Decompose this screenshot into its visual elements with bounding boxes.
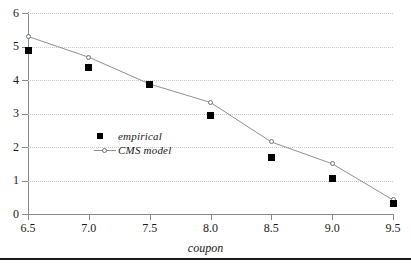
data-point-cms-model — [330, 161, 335, 166]
chart-figure: 6 5 4 3 2 1 0 6.5 7.0 7.5 8.0 8.5 9.0 9.… — [0, 0, 411, 267]
x-axis-title: coupon — [0, 241, 411, 256]
y-tick-label: 0 — [0, 208, 19, 220]
y-tick-label: 1 — [0, 174, 19, 186]
x-tick-label: 8.5 — [251, 222, 291, 235]
data-point-empirical — [390, 200, 397, 207]
plot-area: empirical CMS model — [28, 13, 393, 214]
data-point-empirical — [207, 112, 214, 119]
x-tick-label: 7.0 — [69, 222, 109, 235]
legend-label: CMS model — [118, 144, 171, 156]
x-tick-label: 9.0 — [312, 222, 352, 235]
y-tick-label: 5 — [0, 40, 19, 52]
x-tick-label: 7.5 — [130, 222, 170, 235]
x-tick-mark — [89, 214, 90, 220]
x-tick-mark — [28, 214, 29, 220]
x-tick-label: 6.5 — [8, 222, 48, 235]
x-tick-mark — [332, 214, 333, 220]
data-point-empirical — [25, 47, 32, 54]
legend-label: empirical — [118, 130, 162, 142]
x-tick-label: 8.0 — [191, 222, 231, 235]
legend: empirical CMS model — [94, 129, 171, 157]
x-tick-mark — [393, 214, 394, 220]
data-point-empirical — [85, 64, 92, 71]
legend-item-empirical: empirical — [94, 129, 171, 143]
y-tick-label: 3 — [0, 107, 19, 119]
legend-item-cms-model: CMS model — [94, 143, 171, 157]
y-tick-label: 4 — [0, 74, 19, 86]
filled-square-icon — [94, 129, 118, 143]
data-point-empirical — [146, 81, 153, 88]
x-tick-mark — [211, 214, 212, 220]
x-tick-mark — [150, 214, 151, 220]
x-tick-label: 9.5 — [373, 222, 411, 235]
data-point-cms-model — [208, 100, 213, 105]
line-circle-icon — [94, 143, 118, 157]
x-tick-mark — [271, 214, 272, 220]
y-tick-label: 2 — [0, 141, 19, 153]
data-point-empirical — [268, 154, 275, 161]
y-tick-label: 6 — [0, 7, 19, 19]
bottom-rule — [0, 258, 411, 260]
data-point-empirical — [329, 175, 336, 182]
data-point-cms-model — [26, 34, 31, 39]
